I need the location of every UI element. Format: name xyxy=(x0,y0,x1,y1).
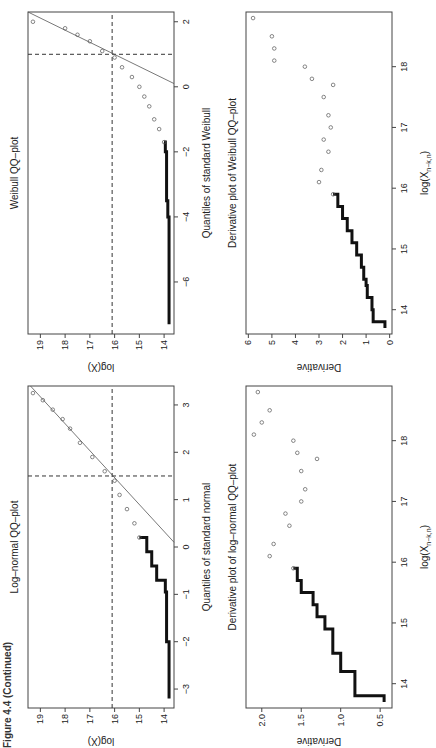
weibull-derivative-plot: Derivative plot of Weibull QQ–plot141516… xyxy=(218,0,436,374)
svg-text:15: 15 xyxy=(134,714,144,724)
svg-text:−2: −2 xyxy=(181,637,191,647)
svg-text:log(X): log(X) xyxy=(88,736,115,747)
svg-text:2: 2 xyxy=(181,19,191,24)
svg-text:16: 16 xyxy=(399,183,409,193)
svg-text:Derivative plot of log–normal: Derivative plot of log–normal QQ–plot xyxy=(227,463,238,630)
svg-text:Quantiles of standard Weibull: Quantiles of standard Weibull xyxy=(201,108,212,238)
svg-text:15: 15 xyxy=(399,618,409,628)
svg-text:18: 18 xyxy=(399,62,409,72)
svg-text:Quantiles of standard normal: Quantiles of standard normal xyxy=(201,483,212,611)
weibull-derivative-svg: Derivative plot of Weibull QQ–plot141516… xyxy=(218,0,436,374)
svg-text:−1: −1 xyxy=(181,589,191,599)
svg-text:3: 3 xyxy=(181,402,191,407)
svg-text:Weibull QQ–plot: Weibull QQ–plot xyxy=(9,136,20,209)
svg-text:16: 16 xyxy=(399,557,409,567)
svg-text:2: 2 xyxy=(181,450,191,455)
svg-text:17: 17 xyxy=(399,122,409,132)
svg-text:18: 18 xyxy=(60,714,70,724)
lognormal-derivative-plot: Derivative plot of log–normal QQ–plot141… xyxy=(218,374,436,748)
svg-text:log(Xn−k,n): log(Xn−k,n) xyxy=(419,151,432,195)
svg-text:2: 2 xyxy=(338,340,348,345)
svg-text:0.5: 0.5 xyxy=(375,714,385,727)
svg-text:−3: −3 xyxy=(181,684,191,694)
svg-text:14: 14 xyxy=(399,305,409,315)
svg-text:17: 17 xyxy=(85,714,95,724)
svg-text:1: 1 xyxy=(181,497,191,502)
svg-text:14: 14 xyxy=(159,340,169,350)
svg-text:2.0: 2.0 xyxy=(257,714,267,727)
svg-text:1.5: 1.5 xyxy=(296,714,306,727)
lognormal-qq-plot: Log–normal QQ–plot−3−2−10123141516171819… xyxy=(0,374,218,748)
svg-text:Log–normal QQ–plot: Log–normal QQ–plot xyxy=(9,500,20,593)
svg-text:18: 18 xyxy=(60,340,70,350)
figure-caption: Figure 4.4 (Continued) xyxy=(2,642,13,748)
svg-text:log(Xn−k,n): log(Xn−k,n) xyxy=(419,525,432,569)
svg-text:15: 15 xyxy=(134,340,144,350)
svg-text:−4: −4 xyxy=(181,212,191,222)
svg-text:14: 14 xyxy=(159,714,169,724)
svg-text:Derivative plot of Weibull QQ–: Derivative plot of Weibull QQ–plot xyxy=(227,98,238,248)
svg-text:14: 14 xyxy=(399,679,409,689)
svg-text:4: 4 xyxy=(290,340,300,345)
weibull-qq-plot: Weibull QQ–plot−6−4−202141516171819Quant… xyxy=(0,0,218,374)
svg-text:Derivative: Derivative xyxy=(296,362,341,373)
svg-text:0: 0 xyxy=(181,544,191,549)
svg-text:0: 0 xyxy=(181,84,191,89)
svg-text:−6: −6 xyxy=(181,277,191,287)
svg-text:5: 5 xyxy=(267,340,277,345)
svg-text:16: 16 xyxy=(110,714,120,724)
svg-text:17: 17 xyxy=(85,340,95,350)
svg-text:19: 19 xyxy=(35,714,45,724)
svg-text:16: 16 xyxy=(110,340,120,350)
svg-text:1: 1 xyxy=(361,340,371,345)
weibull-qq-svg: Weibull QQ–plot−6−4−202141516171819Quant… xyxy=(0,0,218,374)
svg-text:−2: −2 xyxy=(181,147,191,157)
lognormal-derivative-svg: Derivative plot of log–normal QQ–plot141… xyxy=(218,374,436,748)
svg-text:3: 3 xyxy=(314,340,324,345)
svg-text:15: 15 xyxy=(399,244,409,254)
svg-text:Derivative: Derivative xyxy=(296,736,341,747)
svg-text:0: 0 xyxy=(385,340,395,345)
svg-text:19: 19 xyxy=(35,340,45,350)
svg-text:1.0: 1.0 xyxy=(336,714,346,727)
svg-text:log(X): log(X) xyxy=(88,362,115,373)
svg-text:6: 6 xyxy=(243,340,253,345)
svg-text:18: 18 xyxy=(399,436,409,446)
svg-text:17: 17 xyxy=(399,496,409,506)
lognormal-qq-svg: Log–normal QQ–plot−3−2−10123141516171819… xyxy=(0,374,218,748)
